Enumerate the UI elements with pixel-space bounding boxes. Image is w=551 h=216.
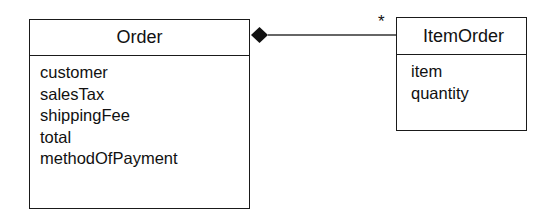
attribute-item: item [411, 61, 526, 83]
composition-diamond-icon [251, 27, 268, 43]
multiplicity-label: * [378, 12, 385, 32]
item-order-class-box: ItemOrder item quantity [396, 17, 527, 131]
attribute-quantity: quantity [411, 83, 526, 105]
item-order-attributes: item quantity [397, 55, 526, 104]
item-order-class-name: ItemOrder [397, 18, 526, 55]
